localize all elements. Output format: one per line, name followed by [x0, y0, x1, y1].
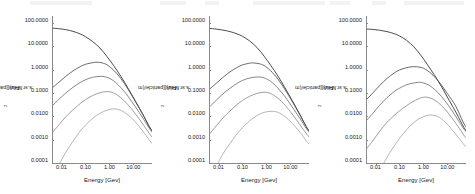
- x-axis-ticks: 0.010.101.0010.00: [197, 165, 323, 175]
- x-tick-label: 0.01: [213, 165, 224, 171]
- y-axis-label-exponent: 2: [160, 105, 165, 107]
- y-tick-label: 1.0000: [345, 65, 362, 71]
- data-curve-curve-2: [53, 62, 152, 131]
- plot-area: [209, 16, 309, 163]
- data-curve-curve-4: [210, 92, 309, 137]
- x-tick-label: 0.10: [237, 165, 248, 171]
- data-curve-curve-1: [367, 29, 466, 130]
- y-axis-ticks: 100.000010.00001.00000.10000.01000.00100…: [169, 14, 207, 162]
- y-tick-label: 0.0100: [188, 112, 205, 118]
- y-tick-label: 0.1000: [188, 88, 205, 94]
- y-tick-label: 10.0000: [185, 42, 205, 48]
- figure-container: Flux [particle/(m2.s.sr.MeV)]100.000010.…: [0, 0, 475, 194]
- y-axis-ticks: 100.000010.00001.00000.10000.01000.00100…: [326, 14, 364, 162]
- x-tick-label: 10.00: [126, 165, 140, 171]
- x-tick-label: 1.00: [104, 165, 115, 171]
- data-curve-curve-3: [367, 82, 466, 131]
- y-axis-ticks: 100.000010.00001.00000.10000.01000.00100…: [12, 14, 50, 162]
- data-curve-curve-2: [367, 67, 466, 127]
- y-tick-label: 10.0000: [28, 42, 48, 48]
- chart-panel-1: Flux [particle/(m2.s.sr.MeV)]100.000010.…: [0, 0, 158, 194]
- x-tick-label: 1.00: [261, 165, 272, 171]
- x-axis-label: Energy [Gev]: [354, 176, 475, 183]
- chart-panel-2: Flux [particle/(m2.s.sr.MeV)]100.000010.…: [157, 0, 315, 194]
- y-tick-label: 0.1000: [31, 88, 48, 94]
- x-tick-label: 1.00: [418, 165, 429, 171]
- plot-area: [52, 16, 152, 163]
- x-tick-label: 10.00: [440, 165, 454, 171]
- y-axis-label-exponent: 2: [317, 105, 322, 107]
- x-tick-label: 0.01: [56, 165, 67, 171]
- data-curve-curve-4: [53, 92, 152, 137]
- y-tick-label: 1.0000: [188, 65, 205, 71]
- y-tick-label: 0.0100: [31, 112, 48, 118]
- data-curve-curve-1: [53, 28, 152, 131]
- y-tick-label: 0.0001: [345, 158, 362, 164]
- y-tick-label: 100.0000: [25, 18, 48, 24]
- data-curve-curve-4: [367, 97, 466, 148]
- x-axis-ticks: 0.010.101.0010.00: [354, 165, 475, 175]
- y-tick-label: 0.0100: [345, 112, 362, 118]
- x-axis-label: Energy [Gev]: [197, 176, 321, 183]
- y-tick-label: 0.0001: [31, 158, 48, 164]
- x-axis-ticks: 0.010.101.0010.00: [40, 165, 166, 175]
- y-tick-label: 10.0000: [342, 42, 362, 48]
- data-curve-curve-2: [210, 63, 309, 131]
- y-tick-label: 1.0000: [31, 65, 48, 71]
- data-curve-curve-5: [218, 111, 309, 163]
- x-tick-label: 0.10: [80, 165, 91, 171]
- y-tick-label: 0.0010: [31, 135, 48, 141]
- y-tick-label: 100.0000: [182, 18, 205, 24]
- x-tick-label: 0.10: [394, 165, 405, 171]
- data-curve-curve-5: [384, 115, 466, 163]
- chart-panel-3: Flux [particle/(m2.s.sr.MeV)]100.000010.…: [314, 0, 472, 194]
- plot-area: [366, 16, 466, 163]
- y-tick-label: 0.0010: [188, 135, 205, 141]
- y-tick-label: 100.0000: [339, 18, 362, 24]
- x-tick-label: 0.01: [370, 165, 381, 171]
- y-tick-label: 0.1000: [345, 88, 362, 94]
- y-tick-label: 0.0001: [188, 158, 205, 164]
- y-tick-label: 0.0010: [345, 135, 362, 141]
- y-axis-label-exponent: 2: [3, 105, 8, 107]
- x-tick-label: 10.00: [283, 165, 297, 171]
- x-axis-label: Energy [Gev]: [40, 176, 164, 183]
